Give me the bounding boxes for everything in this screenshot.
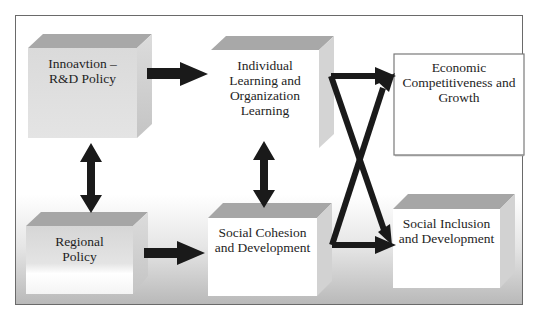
node-learning-label: Individual Learning and Organization Lea… — [211, 58, 319, 118]
node-inclusion-label: Social Inclusion and Development — [393, 216, 500, 246]
label-line: Social Inclusion — [393, 216, 500, 231]
double-arrow-learning-cohesion — [253, 141, 275, 208]
node-innovation-box — [28, 34, 152, 138]
label-line: Competitiveness and — [394, 75, 524, 90]
label-line: R&D Policy — [28, 71, 137, 86]
label-line: Individual — [211, 58, 319, 73]
node-cohesion-label: Social Cohesion and Development — [208, 225, 317, 255]
label-line: Growth — [394, 90, 524, 105]
cross-arrows — [331, 76, 384, 245]
label-line: Economic — [394, 60, 524, 75]
label-line: Learning and — [211, 73, 319, 88]
node-innovation-label: Innoavtion – R&D Policy — [28, 56, 137, 86]
label-line: Policy — [26, 249, 133, 264]
label-line: Innoavtion – — [28, 56, 137, 71]
arrow-cohesion-to-economic — [332, 88, 383, 245]
arrow-innovation-to-learning — [147, 62, 208, 86]
label-line: Learning — [211, 103, 319, 118]
label-line: and Development — [208, 240, 317, 255]
node-economic-label: Economic Competitiveness and Growth — [394, 60, 524, 105]
arrow-regional-to-cohesion — [144, 241, 205, 265]
label-line: Organization — [211, 88, 319, 103]
double-arrow-innovation-regional — [80, 143, 102, 213]
label-line: and Development — [393, 231, 500, 246]
node-regional-label: Regional Policy — [26, 234, 133, 264]
diagram-canvas — [0, 0, 538, 321]
arrow-learning-to-inclusion — [331, 76, 384, 230]
label-line: Regional — [26, 234, 133, 249]
label-line: Social Cohesion — [208, 225, 317, 240]
